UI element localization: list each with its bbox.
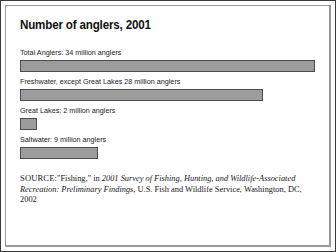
bar-group-saltwater: Saltwater: 9 million anglers <box>20 135 315 159</box>
bar-label-saltwater: Saltwater: 9 million anglers <box>20 135 300 145</box>
source-note: SOURCE:"Fishing," in 2001 Survey of Fish… <box>20 173 315 206</box>
bar-label-great-lakes: Great Lakes: 2 million anglers <box>20 106 300 116</box>
bar-track-saltwater <box>20 147 315 159</box>
figure-container: Number of anglers, 2001 Total Anglers: 3… <box>0 0 336 252</box>
bar-chart: Total Anglers: 34 million anglers Freshw… <box>20 48 315 159</box>
bar-saltwater <box>20 147 98 159</box>
bar-label-total-anglers: Total Anglers: 34 million anglers <box>20 48 300 58</box>
bar-group-great-lakes: Great Lakes: 2 million anglers <box>20 106 315 130</box>
bar-track-freshwater <box>20 89 315 101</box>
bar-total-anglers <box>20 60 315 72</box>
bar-group-freshwater: Freshwater, except Great Lakes 28 millio… <box>20 77 315 101</box>
figure-inner-frame: Number of anglers, 2001 Total Anglers: 3… <box>5 5 331 247</box>
chart-title: Number of anglers, 2001 <box>20 18 294 32</box>
bar-freshwater <box>20 89 263 101</box>
bar-great-lakes <box>20 118 37 130</box>
bar-track-total-anglers <box>20 60 315 72</box>
source-pre-title: "Fishing," in <box>57 174 102 183</box>
bar-group-total-anglers: Total Anglers: 34 million anglers <box>20 48 315 72</box>
bar-label-freshwater: Freshwater, except Great Lakes 28 millio… <box>20 77 300 87</box>
bar-track-great-lakes <box>20 118 315 130</box>
source-label: SOURCE: <box>20 173 57 183</box>
